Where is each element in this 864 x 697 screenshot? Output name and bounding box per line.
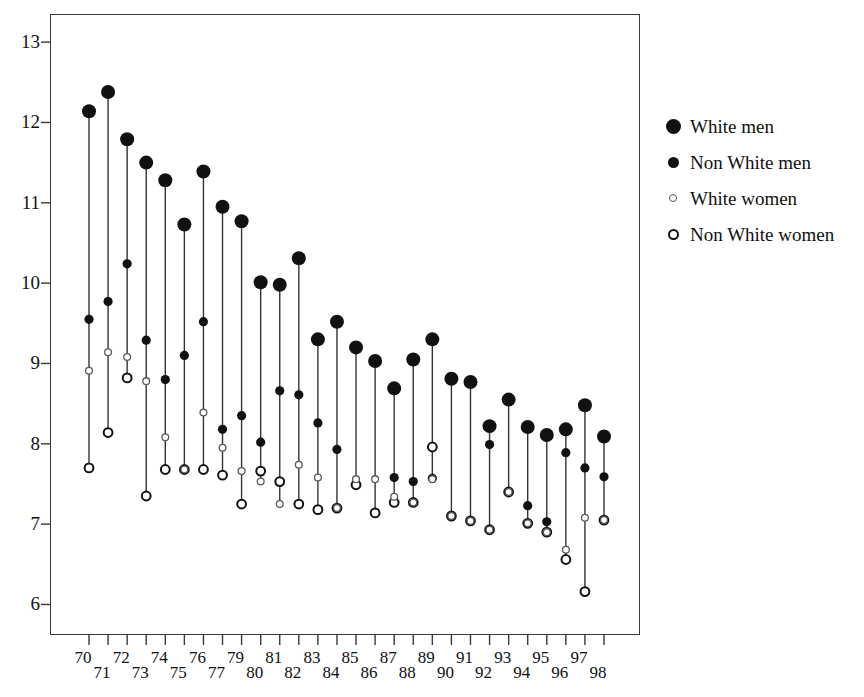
data-point-marker [314, 474, 321, 481]
data-point-marker [237, 500, 246, 509]
data-point-marker [467, 518, 474, 525]
legend-item: White women [660, 180, 860, 216]
data-point-marker [161, 375, 170, 384]
data-point-marker [425, 332, 439, 346]
data-point-marker [580, 463, 589, 472]
data-point-marker [123, 374, 132, 383]
data-point-marker [311, 332, 325, 346]
y-axis-tick-label: 11 [6, 193, 40, 212]
data-point-marker [391, 493, 398, 500]
data-point-marker [562, 546, 569, 553]
legend-marker-icon [660, 157, 686, 168]
data-point-marker [105, 349, 112, 356]
data-point-marker [313, 505, 322, 514]
data-point-marker [196, 164, 210, 178]
plot-canvas [0, 0, 864, 697]
legend-marker-icon [660, 229, 686, 240]
legend-marker-icon [660, 119, 686, 134]
data-point-marker [543, 529, 550, 536]
data-point-marker [372, 476, 379, 483]
data-point-marker [485, 440, 494, 449]
data-point-marker [162, 434, 169, 441]
data-point-marker [200, 409, 207, 416]
data-point-marker [409, 477, 418, 486]
data-point-marker [256, 438, 265, 447]
chart-figure: 678910111213 707172737475767779808182838… [0, 0, 864, 697]
data-point-marker [123, 259, 132, 268]
data-point-marker [561, 555, 570, 564]
data-point-marker [353, 476, 360, 483]
data-point-marker [238, 468, 245, 475]
data-point-marker [142, 492, 151, 501]
legend-item-label: Non White men [690, 153, 811, 172]
marker-glyph [668, 157, 679, 168]
data-point-marker [276, 501, 283, 508]
data-point-marker [120, 132, 134, 146]
data-point-marker [216, 200, 230, 214]
data-point-marker [235, 214, 249, 228]
data-point-marker [313, 418, 322, 427]
data-point-marker [273, 278, 287, 292]
data-point-marker [540, 428, 554, 442]
data-point-marker [142, 336, 151, 345]
data-point-marker [199, 465, 208, 474]
data-point-marker [542, 517, 551, 526]
data-point-marker [330, 315, 344, 329]
data-point-marker [275, 386, 284, 395]
data-point-marker [349, 340, 363, 354]
data-point-marker [86, 367, 93, 374]
data-point-marker [177, 217, 191, 231]
legend-item: White men [660, 108, 860, 144]
data-point-marker [502, 393, 516, 407]
data-point-marker [429, 476, 436, 483]
data-point-marker [486, 526, 493, 533]
data-point-marker [218, 471, 227, 480]
data-point-marker [581, 587, 590, 596]
data-point-marker [524, 520, 531, 527]
data-point-marker [582, 514, 589, 521]
y-axis-tick-label: 13 [6, 32, 40, 51]
marker-glyph [669, 194, 677, 202]
data-point-marker [368, 354, 382, 368]
data-point-marker [82, 104, 96, 118]
data-point-marker [254, 275, 268, 289]
data-point-marker [483, 419, 497, 433]
legend-item-label: Non White women [690, 225, 834, 244]
data-point-marker [104, 428, 113, 437]
data-point-marker [161, 465, 170, 474]
data-point-marker [406, 352, 420, 366]
y-axis-tick-label: 10 [6, 273, 40, 292]
data-point-marker [387, 381, 401, 395]
data-point-marker [559, 422, 573, 436]
legend-item: Non White women [660, 216, 860, 252]
data-point-marker [597, 430, 611, 444]
data-point-marker [523, 501, 532, 510]
y-axis-tick-label: 12 [6, 112, 40, 131]
data-point-marker [199, 317, 208, 326]
data-point-marker [428, 443, 437, 452]
marker-glyph [668, 229, 679, 240]
data-point-marker [219, 444, 226, 451]
data-point-marker [294, 390, 303, 399]
data-point-marker [257, 478, 264, 485]
data-point-marker [124, 354, 131, 361]
data-point-marker [599, 472, 608, 481]
data-point-marker [561, 448, 570, 457]
y-axis-tick-label: 6 [6, 594, 40, 613]
data-point-marker [448, 513, 455, 520]
data-point-marker [578, 398, 592, 412]
data-point-marker [139, 156, 153, 170]
data-point-marker [256, 467, 265, 476]
data-point-marker [85, 464, 94, 473]
data-point-marker [505, 489, 512, 496]
data-point-marker [143, 378, 150, 385]
data-point-marker [181, 466, 188, 473]
x-axis-tick-label: 98 [583, 664, 613, 681]
y-axis-tick-label: 7 [6, 514, 40, 533]
data-point-marker [334, 505, 341, 512]
y-axis-tick-label: 9 [6, 353, 40, 372]
data-point-marker [218, 425, 227, 434]
data-point-marker [180, 351, 189, 360]
chart-legend: White menNon White menWhite womenNon Whi… [660, 108, 860, 252]
data-point-marker [390, 473, 399, 482]
